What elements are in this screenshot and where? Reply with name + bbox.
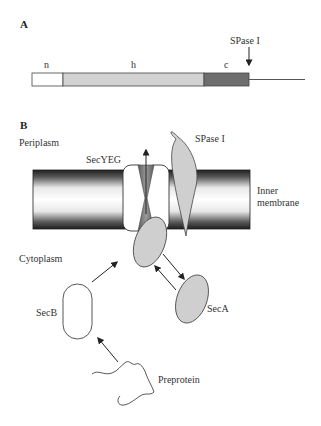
inner-membrane-label-line1: Inner [257, 185, 279, 196]
region-c-bar [204, 73, 249, 86]
panel-b: B Periplasm Inner membrane SecYEG SPase … [19, 119, 300, 405]
secyeg-label: SecYEG [86, 154, 121, 165]
secb-chaperone [63, 284, 92, 339]
panel-a-label: A [20, 18, 28, 30]
cytoplasm-label: Cytoplasm [19, 253, 63, 264]
panel-b-label: B [20, 119, 28, 131]
secb-to-seca-arrow-icon [92, 262, 117, 282]
preprotein-label: Preprotein [158, 374, 200, 385]
secb-label: SecB [36, 307, 57, 318]
preprotein-chain [92, 362, 154, 406]
panel-a: A SPase I n h c [20, 18, 305, 86]
cleavage-site-label: SPase I [230, 35, 260, 46]
seca-release-arrow-icon [163, 254, 184, 279]
sec-pathway-diagram: A SPase I n h c B Periplasm Inner membra… [0, 0, 321, 426]
region-n-bar [32, 73, 63, 86]
spase-label: SPase I [195, 133, 225, 144]
region-h-label: h [131, 59, 136, 70]
preprotein-to-secb-arrow-icon [98, 338, 118, 362]
seca-label: SecA [207, 303, 229, 314]
seca-free [169, 270, 214, 327]
region-c-label: c [224, 59, 229, 70]
region-n-label: n [44, 59, 49, 70]
inner-membrane-label-line2: membrane [257, 197, 300, 208]
region-h-bar [63, 73, 204, 86]
seca-binding-arrow-icon [155, 266, 176, 290]
periplasm-label: Periplasm [19, 137, 59, 148]
